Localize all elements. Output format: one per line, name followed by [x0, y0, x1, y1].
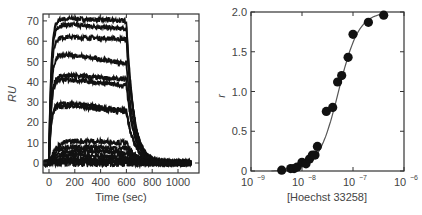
sensorgram-traces	[44, 17, 191, 167]
x-tick-label: 400	[91, 176, 109, 188]
data-point	[337, 71, 346, 80]
data-point	[313, 142, 322, 151]
data-point	[379, 11, 388, 20]
right-x-axis-title: [Hoechst 33258]	[287, 191, 367, 203]
data-point	[364, 18, 373, 27]
figure: 010203040506070 02004006008001000 RU Tim…	[0, 0, 422, 215]
right-y-axis: 00.51.01.52.0	[232, 6, 404, 177]
x-tick-exponent: −6	[410, 174, 418, 181]
y-tick-label: 20	[27, 116, 39, 128]
data-point	[277, 166, 286, 175]
x-tick-exponent: −8	[308, 174, 316, 181]
right-y-axis-title: r	[215, 93, 227, 98]
x-tick-label: 800	[143, 176, 161, 188]
y-tick-label: 1.0	[232, 86, 247, 98]
data-point	[344, 53, 353, 62]
x-tick-exponent: −9	[257, 174, 265, 181]
y-tick-label: 1.5	[232, 46, 247, 58]
y-tick-label: 30	[27, 96, 39, 108]
y-tick-label: 40	[27, 76, 39, 88]
right-plot-frame	[251, 12, 404, 171]
data-points	[277, 11, 388, 175]
y-tick-label: 60	[27, 35, 39, 47]
x-tick-label: 600	[117, 176, 135, 188]
x-tick-exponent: −7	[359, 174, 367, 181]
y-tick-label: 70	[27, 15, 39, 27]
binding-isotherm-chart: 00.51.01.52.0 10−910−810−710−6 r [Hoechs…	[215, 6, 418, 203]
right-x-axis: 10−910−810−710−6	[241, 12, 418, 188]
left-x-axis-title: Time (sec)	[95, 191, 147, 203]
sensorgram-chart: 010203040506070 02004006008001000 RU Tim…	[6, 14, 199, 203]
x-tick-label: 1000	[166, 176, 190, 188]
data-point	[328, 103, 337, 112]
x-tick-label: 200	[66, 176, 84, 188]
x-tick-label: 10	[292, 176, 304, 188]
left-y-axis-title: RU	[6, 86, 18, 102]
x-tick-label: 0	[46, 176, 52, 188]
data-point	[348, 30, 357, 39]
x-tick-label: 10	[394, 176, 406, 188]
y-tick-label: 2.0	[232, 6, 247, 18]
data-point	[310, 151, 319, 160]
y-tick-label: 0	[33, 157, 39, 169]
fit-curve	[271, 14, 383, 171]
x-tick-label: 10	[343, 176, 355, 188]
y-tick-label: 0.5	[232, 125, 247, 137]
y-tick-label: 50	[27, 56, 39, 68]
x-tick-label: 10	[241, 176, 253, 188]
y-tick-label: 10	[27, 137, 39, 149]
